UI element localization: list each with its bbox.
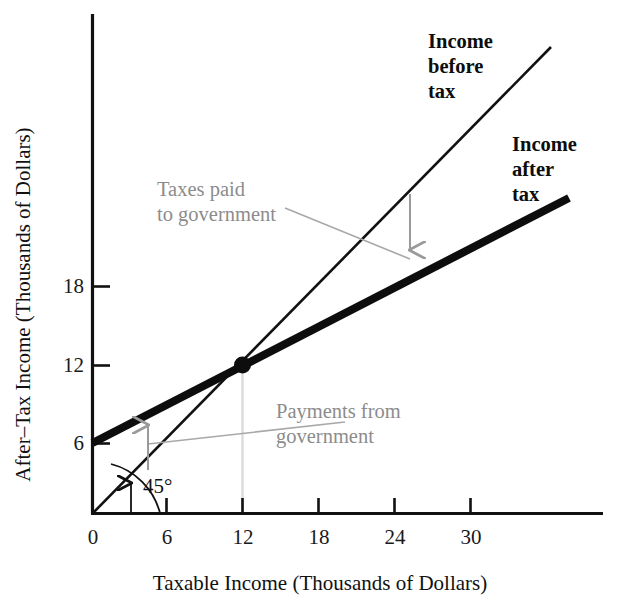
y-axis-title: After–Tax Income (Thousands of Dollars) — [6, 0, 40, 609]
x-tick-label-30: 30 — [454, 527, 488, 548]
chart-plot-area — [0, 0, 640, 609]
break-even-point-marker — [234, 357, 251, 374]
x-axis-ticks — [167, 498, 471, 513]
x-tick-label-6: 6 — [151, 527, 183, 548]
taxes-paid-leader-line — [285, 208, 410, 259]
x-tick-label-18: 18 — [302, 527, 336, 548]
x-tick-label-12: 12 — [226, 527, 260, 548]
x-axis-title: Taxable Income (Thousands of Dollars) — [0, 571, 640, 596]
annotation-payments-from-government: Payments from government — [276, 399, 401, 449]
series-label-income-after-tax: Income after tax — [512, 132, 577, 207]
x-tick-label-24: 24 — [378, 527, 412, 548]
y-axis-ticks — [93, 287, 110, 444]
x-tick-label-0: 0 — [77, 527, 109, 548]
y-tick-label-6: 6 — [48, 433, 84, 454]
annotation-taxes-paid: Taxes paid to government — [157, 177, 276, 227]
chart-figure: 0 6 12 18 24 30 18 12 6 Taxable Income (… — [0, 0, 640, 609]
y-tick-label-12: 12 — [48, 355, 84, 376]
y-tick-label-18: 18 — [48, 276, 84, 297]
series-label-income-before-tax: Income before tax — [428, 29, 493, 104]
angle-label-45: 45° — [143, 474, 172, 499]
